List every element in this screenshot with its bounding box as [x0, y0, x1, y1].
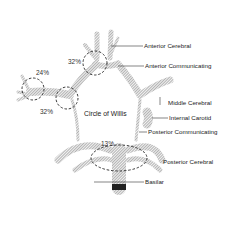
- posterior-communicating-right-vessel: [136, 100, 140, 140]
- percentage-basilar: 13%: [101, 141, 114, 148]
- basilar-cut-end: [112, 184, 126, 190]
- label-internal-carotid: Internal Carotid: [169, 115, 211, 121]
- label-circle-of-willis: Circle of Willis: [84, 111, 127, 118]
- label-posterior-communicating: Posterior Communicating: [148, 129, 217, 135]
- percentage-anterior: 32%: [68, 59, 81, 66]
- label-anterior-communicating: Anterior Communicating: [145, 63, 211, 69]
- label-basilar: Basilar: [145, 179, 164, 185]
- label-posterior-cerebral: Posterior Cerebral: [163, 159, 213, 165]
- percentage-carotid: 32%: [40, 109, 53, 116]
- label-middle-cerebral: Middle Cerebral: [168, 100, 212, 106]
- label-anterior-cerebral: Anterior Cerebral: [144, 43, 191, 49]
- internal-carotid-vessel: [147, 112, 149, 124]
- percentage-middle-cerebral: 24%: [36, 70, 49, 77]
- middle-cerebral-left-vessel: [30, 91, 70, 95]
- posterior-communicating-left-vessel: [72, 100, 78, 140]
- middle-cerebral-right-vessel: [140, 80, 170, 95]
